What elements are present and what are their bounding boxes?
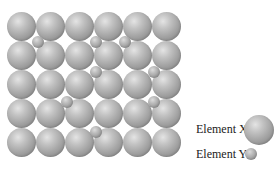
element-y-atom: [90, 66, 102, 78]
element-x-atom: [7, 41, 36, 70]
element-x-atom: [7, 99, 36, 128]
element-x-atom: [152, 12, 181, 41]
element-y-atom: [148, 96, 160, 108]
element-y-atom: [32, 36, 44, 48]
element-y-atom: [148, 66, 160, 78]
element-x-atom: [7, 128, 36, 157]
element-y-atom: [61, 96, 73, 108]
element-x-atom: [94, 99, 123, 128]
element-x-atom: [152, 128, 181, 157]
legend-element-x-sphere-icon: [244, 115, 274, 145]
element-y-atom: [90, 36, 102, 48]
element-x-atom: [65, 12, 94, 41]
element-x-atom: [7, 70, 36, 99]
element-x-atom: [36, 128, 65, 157]
element-y-atom: [119, 36, 131, 48]
legend-label-element-x: Element X: [196, 122, 248, 136]
legend-label-element-y: Element Y: [196, 147, 247, 161]
element-x-atom: [65, 41, 94, 70]
legend-element-y-sphere-icon: [245, 148, 257, 160]
alloy-lattice-diagram: Element X Element Y: [0, 0, 280, 172]
element-y-atom: [90, 126, 102, 138]
element-x-atom: [36, 70, 65, 99]
element-x-atom: [7, 12, 36, 41]
element-x-atom: [123, 128, 152, 157]
